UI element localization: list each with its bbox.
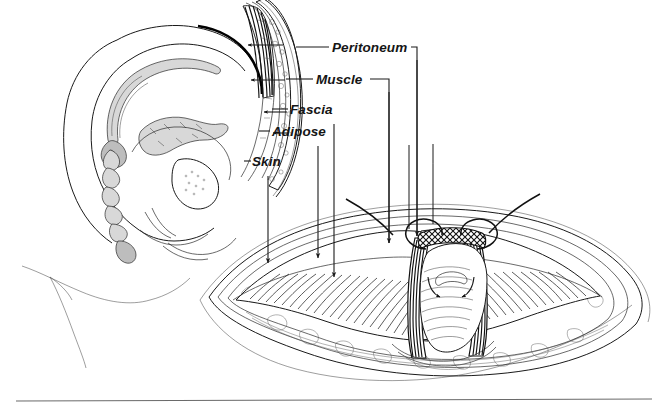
peritoneum-leader-long [411,47,417,236]
maternal-leg-contour [50,277,86,368]
label-fascia: Fascia [290,102,333,117]
abdominal-wall-layer-stack [198,0,302,197]
lower-uterine-segment [135,227,214,241]
medical-illustration-figure: Peritoneum Muscle Fascia Adipose Skin [0,0,667,413]
label-peritoneum: Peritoneum [332,40,407,55]
label-muscle: Muscle [316,72,363,87]
maternal-lower-contour [150,278,190,300]
abdomen-dome-outer [117,25,250,58]
maternal-groin-crease [50,277,72,300]
perineum-line [163,246,208,260]
bottom-rule [16,399,652,401]
suture-strand-left [346,199,393,235]
bladder [172,159,219,209]
label-group: Peritoneum Muscle Fascia Adipose Skin [252,40,407,169]
sagittal-section-panel [22,0,302,368]
label-adipose: Adipose [271,124,326,139]
cervix-canal-a [145,212,171,238]
maternal-thigh-contour [22,266,150,303]
placenta [139,117,228,155]
illustration-canvas: Peritoneum Muscle Fascia Adipose Skin [0,0,667,413]
cervix-canal-b [152,208,176,236]
label-skin: Skin [252,154,281,169]
